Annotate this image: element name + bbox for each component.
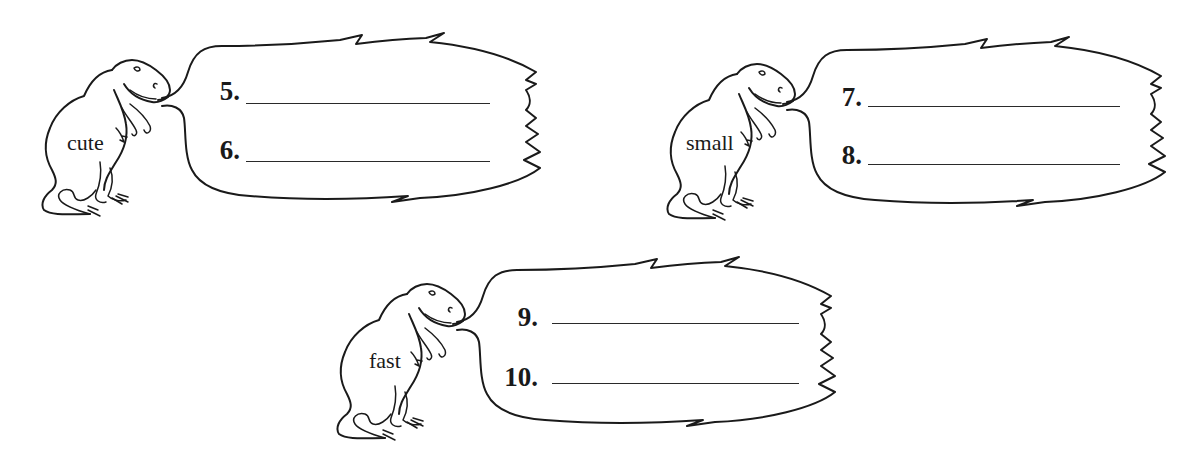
- speech-bubble-icon: [787, 37, 1165, 206]
- speech-bubble-icon: [457, 257, 835, 426]
- dinosaur-icon: [337, 284, 465, 440]
- item-number: 7.: [818, 82, 862, 113]
- answer-blank-9[interactable]: [552, 323, 799, 324]
- answer-blank-6[interactable]: [246, 161, 490, 162]
- dino-adjective: fast: [369, 348, 401, 374]
- item-number: 10.: [494, 362, 538, 393]
- dino-adjective: cute: [67, 130, 104, 156]
- dino-group-1: [42, 33, 540, 216]
- dino-group-2: [667, 37, 1165, 220]
- dino-group-3: [337, 257, 835, 440]
- item-number: 9.: [494, 302, 538, 333]
- answer-blank-7[interactable]: [868, 106, 1120, 107]
- dino-adjective: small: [686, 130, 734, 156]
- answer-blank-8[interactable]: [868, 164, 1120, 165]
- dinosaur-icon: [42, 60, 170, 216]
- answer-blank-5[interactable]: [246, 103, 490, 104]
- item-number: 6.: [196, 135, 240, 166]
- answer-blank-10[interactable]: [552, 383, 799, 384]
- item-number: 5.: [196, 76, 240, 107]
- speech-bubble-icon: [162, 33, 540, 202]
- item-number: 8.: [818, 140, 862, 171]
- worksheet-drawing: [0, 0, 1203, 465]
